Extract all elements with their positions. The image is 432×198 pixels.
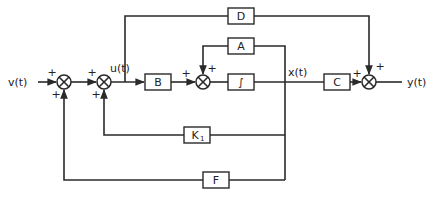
sum4-sign-left: + <box>352 67 361 80</box>
block-A: A <box>228 38 254 54</box>
block-B-label: B <box>154 76 162 89</box>
block-D: D <box>228 8 254 24</box>
signal-input-label: v(t) <box>8 76 27 89</box>
block-K1-label: K <box>191 129 199 142</box>
signal-control-label: u(t) <box>110 62 130 75</box>
wire-D-to-sum4 <box>254 16 369 74</box>
summing-junction-3 <box>196 75 210 89</box>
sum1-sign-left: + <box>47 66 56 79</box>
summing-junction-output <box>362 75 376 89</box>
wire-K1-to-sum2 <box>104 90 184 135</box>
summing-junction-1 <box>57 75 71 89</box>
block-diagram: B A ∫ D C K 1 F v(t) u(t) x(t) y(t) + + … <box>0 0 432 198</box>
block-B: B <box>145 74 171 90</box>
sum3-sign-top: + <box>207 62 216 75</box>
sum3-sign-left: + <box>181 67 190 80</box>
block-integrator: ∫ <box>228 74 254 90</box>
wire-x-to-A <box>254 46 285 82</box>
block-K1: K 1 <box>184 127 210 143</box>
summing-junction-2 <box>97 75 111 89</box>
block-A-label: A <box>237 40 245 53</box>
block-C-label: C <box>333 76 341 89</box>
sum4-sign-top: + <box>375 60 384 73</box>
block-K1-subscript: 1 <box>200 135 204 143</box>
sum1-sign-bottom: + <box>51 88 60 101</box>
block-F: F <box>203 172 229 188</box>
signal-output-label: y(t) <box>407 76 426 89</box>
signal-state-label: x(t) <box>288 66 307 79</box>
block-F-label: F <box>213 174 219 187</box>
sum2-sign-bottom: + <box>91 88 100 101</box>
sum2-sign-left: + <box>87 66 96 79</box>
block-C: C <box>324 74 350 90</box>
integral-icon: ∫ <box>238 76 244 89</box>
block-D-label: D <box>237 10 245 23</box>
